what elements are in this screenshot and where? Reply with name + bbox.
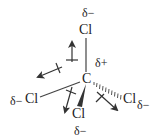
top-atom-label: Cl (79, 23, 92, 37)
dipole-arrow-left (38, 63, 62, 77)
bond-left (40, 82, 80, 97)
center-charge-label: δ+ (95, 56, 107, 70)
top-charge-label: δ− (82, 6, 94, 20)
dipole-arrow-right (96, 92, 117, 110)
bond-hash (94, 82, 121, 100)
right-atom-label: Cl (123, 92, 136, 106)
left-atom-label: Cl (25, 92, 38, 106)
bond-wedge (77, 84, 86, 107)
bottom-charge-label: δ− (74, 124, 86, 138)
left-charge-label: δ− (10, 94, 22, 108)
right-charge-label: δ− (137, 98, 149, 112)
center-atom-label: C (82, 72, 91, 86)
bottom-atom-label: Cl (72, 107, 85, 121)
dipole-arrow-up (66, 42, 78, 62)
